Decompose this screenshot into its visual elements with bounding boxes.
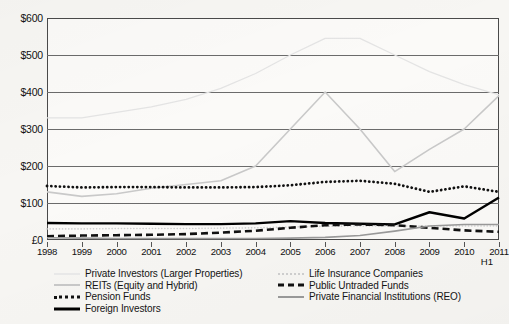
legend-item[interactable]: Private Investors (Larger Properties) bbox=[54, 268, 242, 280]
legend-item-label: Private Financial Institutions (REO) bbox=[309, 291, 461, 302]
legend-item-label: Pension Funds bbox=[85, 291, 150, 302]
legend-swatch-icon bbox=[54, 291, 80, 302]
legend-item[interactable]: Pension Funds bbox=[54, 291, 242, 303]
x-axis-tick-label: 2008 bbox=[385, 246, 405, 257]
series-layer bbox=[47, 18, 499, 240]
y-axis-tick-label: $100 bbox=[20, 197, 43, 209]
x-axis-tick-label: 2004 bbox=[246, 246, 266, 257]
y-axis-tick-label: $500 bbox=[20, 49, 43, 61]
x-axis-tick-label: 2003 bbox=[211, 246, 231, 257]
legend-column-left: Private Investors (Larger Properties)REI… bbox=[54, 268, 242, 314]
y-axis-tick-label: $200 bbox=[20, 160, 43, 172]
series-line bbox=[47, 38, 499, 118]
x-axis-labels: 1998199920002001200220032004200520062007… bbox=[47, 242, 499, 258]
legend-item-label: Public Untraded Funds bbox=[309, 280, 409, 291]
legend-item[interactable]: Life Insurance Companies bbox=[278, 268, 461, 280]
chart-legend: Private Investors (Larger Properties)REI… bbox=[0, 268, 509, 320]
y-axis-tick-label: $400 bbox=[20, 86, 43, 98]
x-axis-tick-label: 2001 bbox=[141, 246, 161, 257]
legend-swatch-icon bbox=[54, 268, 80, 279]
legend-swatch-icon bbox=[278, 280, 304, 291]
y-axis-tick-label: $600 bbox=[20, 12, 43, 24]
legend-swatch-icon bbox=[278, 291, 304, 302]
legend-item[interactable]: Foreign Investors bbox=[54, 303, 242, 315]
legend-swatch-icon bbox=[54, 303, 80, 314]
legend-item[interactable]: REITs (Equity and Hybrid) bbox=[54, 280, 242, 292]
legend-swatch-icon bbox=[54, 280, 80, 291]
legend-item-label: Life Insurance Companies bbox=[309, 268, 423, 279]
legend-item-label: Foreign Investors bbox=[85, 303, 161, 314]
legend-item-label: Private Investors (Larger Properties) bbox=[85, 268, 242, 279]
series-line bbox=[47, 197, 499, 224]
plot-area bbox=[47, 18, 499, 240]
legend-swatch-icon bbox=[278, 268, 304, 279]
x-axis-tick-label: 2005 bbox=[280, 246, 300, 257]
x-axis-tick-label: 2010 bbox=[454, 246, 474, 257]
chart-page: $600$500$400$300$200$100£0 1998199920002… bbox=[0, 0, 509, 324]
y-axis-labels: $600$500$400$300$200$100£0 bbox=[0, 18, 43, 240]
y-axis-tick-label: $300 bbox=[20, 123, 43, 135]
series-line bbox=[47, 92, 499, 196]
x-axis-tick-label: 2000 bbox=[106, 246, 126, 257]
x-axis-tick-label: 1998 bbox=[37, 246, 57, 257]
x-axis-tick-label: 1999 bbox=[72, 246, 92, 257]
x-axis-tick-label: 2006 bbox=[315, 246, 335, 257]
legend-column-right: Life Insurance CompaniesPublic Untraded … bbox=[278, 268, 461, 303]
series-line bbox=[47, 181, 499, 192]
legend-item-label: REITs (Equity and Hybrid) bbox=[85, 280, 198, 291]
x-axis-tick-label: 2007 bbox=[350, 246, 370, 257]
x-axis-h1-label: H1 bbox=[481, 256, 493, 267]
x-axis-tick-label: 2002 bbox=[176, 246, 196, 257]
y-axis-tick-label: £0 bbox=[32, 234, 43, 246]
legend-item[interactable]: Private Financial Institutions (REO) bbox=[278, 291, 461, 303]
legend-item[interactable]: Public Untraded Funds bbox=[278, 280, 461, 292]
x-axis-tick-label: 2009 bbox=[419, 246, 439, 257]
